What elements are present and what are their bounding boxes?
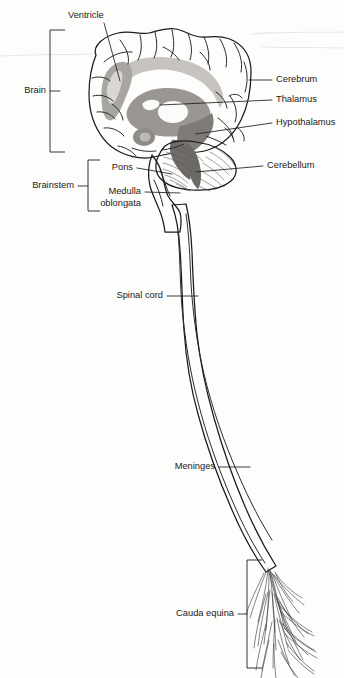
figure-canvas: Brain Brainstem Cauda equina Ventricle C…: [0, 0, 344, 678]
meninges-outer-line: [186, 214, 272, 540]
label-cauda-equina: Cauda equina: [176, 608, 235, 618]
label-pons: Pons: [112, 162, 134, 172]
leader-pons: [137, 168, 172, 174]
brainstem-bracket: [78, 160, 100, 211]
label-medulla-line1: Medulla: [108, 186, 141, 196]
label-thalamus: Thalamus: [276, 94, 317, 104]
cauda-equina: [246, 568, 317, 678]
label-medulla-line2: oblongata: [100, 198, 142, 208]
label-cerebrum: Cerebrum: [276, 74, 318, 84]
spinal-cord: [172, 204, 276, 572]
label-hypothalamus: Hypothalamus: [276, 117, 336, 127]
leader-medulla: [145, 192, 180, 193]
label-cerebellum: Cerebellum: [267, 160, 315, 170]
label-brain: Brain: [24, 85, 46, 95]
hypothalamus-inner: [140, 133, 151, 142]
label-ventricle: Ventricle: [68, 10, 104, 20]
brain-bracket: [50, 30, 65, 152]
cerebellum-vermis: [186, 143, 201, 189]
label-meninges: Meninges: [175, 461, 216, 471]
label-spinal-cord: Spinal cord: [116, 290, 163, 300]
label-brainstem: Brainstem: [32, 180, 74, 190]
cauda-equina-fibers: [246, 570, 317, 678]
cauda-equina-bracket: [238, 560, 262, 668]
cns-diagram: Brain Brainstem Cauda equina Ventricle C…: [0, 0, 344, 678]
